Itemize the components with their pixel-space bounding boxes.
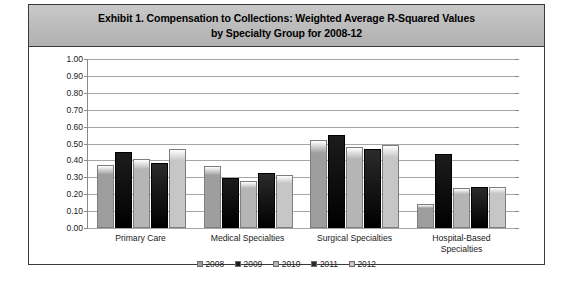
bar-2009-3 xyxy=(435,154,452,228)
y-axis-tick-mark-right xyxy=(515,160,519,161)
y-axis-tick-label: 0.40 xyxy=(66,155,83,165)
bar-group xyxy=(195,59,302,228)
y-axis-tick-mark xyxy=(84,228,88,229)
legend-swatch-icon xyxy=(235,261,241,267)
bar-2008-0 xyxy=(97,165,114,228)
y-axis-tick-mark-right xyxy=(515,127,519,128)
y-axis-tick-label: 0.70 xyxy=(66,105,83,115)
bar-group xyxy=(302,59,409,228)
y-axis-tick-mark-right xyxy=(515,110,519,111)
legend-item-2008: 2008 xyxy=(197,259,224,269)
bar-2012-3 xyxy=(489,187,506,228)
x-axis-category-label: Hospital-Based Specialties xyxy=(408,233,515,254)
exhibit-title-banner: Exhibit 1. Compensation to Collections: … xyxy=(29,5,544,47)
bar-2011-2 xyxy=(364,149,381,228)
bar-2009-2 xyxy=(328,135,345,228)
bar-2009-0 xyxy=(115,152,132,228)
x-axis-category-labels: Primary CareMedical SpecialtiesSurgical … xyxy=(87,233,515,254)
page-title: Exhibit 1. Compensation to Collections: … xyxy=(84,11,489,39)
y-axis-tick-label: 1.00 xyxy=(66,54,83,64)
bar-2010-2 xyxy=(346,147,363,228)
y-axis-tick-label: 0.90 xyxy=(66,71,83,81)
chart-container: 1.000.900.800.700.600.500.400.300.200.10… xyxy=(29,47,544,266)
y-axis-tick-label: 0.60 xyxy=(66,122,83,132)
y-axis-tick-mark-right xyxy=(515,144,519,145)
y-axis-tick-mark-right xyxy=(515,177,519,178)
legend-swatch-icon xyxy=(311,261,317,267)
legend-label: 2011 xyxy=(320,259,338,269)
y-axis-tick-label: 0.30 xyxy=(66,172,83,182)
plot-area: 1.000.900.800.700.600.500.400.300.200.10… xyxy=(87,59,515,229)
y-axis-tick-mark-right xyxy=(515,93,519,94)
bar-2011-0 xyxy=(151,163,168,228)
legend-swatch-icon xyxy=(349,261,355,267)
x-axis-category-label: Surgical Specialties xyxy=(301,233,408,254)
legend-swatch-icon xyxy=(273,261,279,267)
bar-group xyxy=(88,59,195,228)
bar-2012-0 xyxy=(169,149,186,228)
legend-label: 2010 xyxy=(282,259,301,269)
x-axis-category-label: Medical Specialties xyxy=(194,233,301,254)
bar-2008-3 xyxy=(417,204,434,228)
y-axis-tick-mark-right xyxy=(515,228,519,229)
y-axis-tick-label: 0.10 xyxy=(66,206,83,216)
y-axis-tick-mark-right xyxy=(515,76,519,77)
legend-label: 2008 xyxy=(205,259,224,269)
legend-item-2011: 2011 xyxy=(311,259,338,269)
legend-item-2012: 2012 xyxy=(349,259,376,269)
exhibit-frame: Exhibit 1. Compensation to Collections: … xyxy=(28,4,545,265)
legend-item-2010: 2010 xyxy=(273,259,300,269)
bar-2010-1 xyxy=(240,181,257,228)
bar-group xyxy=(408,59,515,228)
y-axis-tick-label: 0.50 xyxy=(66,139,83,149)
bar-2012-1 xyxy=(276,175,293,228)
bar-2008-2 xyxy=(310,140,327,228)
y-axis-tick-mark-right xyxy=(515,194,519,195)
bar-series-layer xyxy=(88,59,515,228)
legend-label: 2012 xyxy=(357,259,376,269)
bar-2011-3 xyxy=(471,187,488,228)
x-axis-category-label: Primary Care xyxy=(87,233,194,254)
bar-2011-1 xyxy=(258,173,275,228)
y-axis-tick-label: 0.20 xyxy=(66,189,83,199)
y-axis-tick-mark-right xyxy=(515,59,519,60)
bar-2009-1 xyxy=(222,178,239,228)
gridline xyxy=(88,228,515,229)
bar-2010-0 xyxy=(133,159,150,228)
legend-label: 2009 xyxy=(244,259,263,269)
bar-2012-2 xyxy=(382,145,399,228)
y-axis-tick-label: 0.00 xyxy=(66,223,83,233)
legend-item-2009: 2009 xyxy=(235,259,262,269)
legend-swatch-icon xyxy=(197,261,203,267)
chart-legend: 20082009201020112012 xyxy=(29,259,544,269)
y-axis-tick-label: 0.80 xyxy=(66,88,83,98)
bar-2010-3 xyxy=(453,188,470,228)
bar-2008-1 xyxy=(204,166,221,228)
y-axis-tick-mark-right xyxy=(515,211,519,212)
